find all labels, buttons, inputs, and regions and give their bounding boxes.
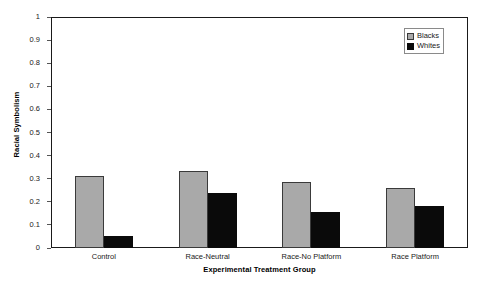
y-axis-tick-label-text: 0.8 [14,59,40,67]
y-axis-tick [47,63,51,64]
y-axis-tick-label: 1 [14,13,40,21]
x-axis-tick-label: Race-Neutral [148,252,268,261]
y-axis-tick-label: 0.2 [14,198,40,206]
x-axis-tick-label: Control [44,252,164,261]
y-axis-tick [47,86,51,87]
y-axis-tick-label-text: 0.2 [14,198,40,206]
y-axis-tick-label: 0 [14,244,40,252]
y-axis-tick [47,109,51,110]
y-axis-tick-label: 0.8 [14,59,40,67]
y-axis-tick-label: 0.3 [14,175,40,183]
y-axis-tick-label: 0.4 [14,152,40,160]
y-axis-tick [47,248,51,249]
bar-race-platform-whites [415,206,444,248]
y-axis-tick-label-text: 0.5 [14,129,40,137]
y-axis-tick-label-text: 0.3 [14,175,40,183]
bar-race-neutral-blacks [179,171,208,248]
y-axis-tick-label-text: 0.1 [14,221,40,229]
x-axis-tick-label: Race-No Platform [251,252,371,261]
y-axis-tick [47,224,51,225]
y-axis-tick-label-text: 0.7 [14,82,40,90]
bar-chart: Racial Symbolism 00.10.20.30.40.50.60.70… [0,0,485,283]
chart-legend: BlacksWhites [404,28,444,54]
y-axis-tick-label: 0.6 [14,105,40,113]
y-axis-tick [47,201,51,202]
y-axis-tick-label: 0.9 [14,36,40,44]
x-axis-tick-label: Race Platform [355,252,475,261]
legend-item-whites: Whites [407,41,440,51]
y-axis-tick-label-text: 0 [14,244,40,252]
bar-race-no-platform-whites [311,212,340,248]
y-axis-tick [47,17,51,18]
y-axis-tick-label-text: 0.9 [14,36,40,44]
y-axis-tick-label-text: 0.4 [14,152,40,160]
legend-item-blacks: Blacks [407,31,440,41]
y-axis-tick-label: 0.1 [14,221,40,229]
bar-control-whites [104,236,133,248]
y-axis-tick [47,155,51,156]
bar-race-platform-blacks [386,188,415,248]
bar-control-blacks [75,176,104,248]
legend-swatch-icon [407,33,414,40]
y-axis-tick-label-text: 0.6 [14,105,40,113]
legend-item-label: Blacks [417,32,439,40]
bar-race-no-platform-blacks [282,182,311,248]
bar-race-neutral-whites [208,193,237,248]
y-axis-tick [47,40,51,41]
y-axis-tick-label: 0.7 [14,82,40,90]
y-axis-tick [47,178,51,179]
y-axis-tick-label: 0.5 [14,129,40,137]
y-axis-tick [47,132,51,133]
legend-swatch-icon [407,43,414,50]
y-axis-tick-label-text: 1 [14,13,40,21]
x-axis-title: Experimental Treatment Group [51,265,468,274]
legend-item-label: Whites [417,42,440,50]
plot-right-border [467,17,468,248]
